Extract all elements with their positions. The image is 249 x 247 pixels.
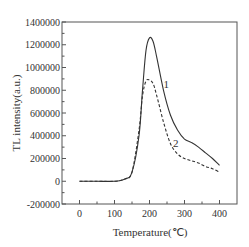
curve-label-2: 2	[173, 137, 179, 149]
x-axis: 0100200300400	[77, 200, 227, 219]
y-axis-title: TL intensity(a.u.)	[10, 74, 23, 151]
plot-frame	[62, 22, 237, 204]
y-tick-label: 1400000	[25, 17, 60, 28]
y-tick-label: 0	[55, 176, 60, 187]
y-tick-label: 1000000	[25, 62, 60, 73]
series-1-line	[80, 37, 220, 181]
y-tick-label: 600000	[30, 108, 60, 119]
y-tick-label: -200000	[27, 199, 60, 210]
y-tick-label: 200000	[30, 153, 60, 164]
y-tick-label: 1200000	[25, 39, 60, 50]
tl-intensity-chart: 1400000120000010000008000006000004000002…	[0, 0, 249, 247]
series-2-line	[80, 79, 220, 181]
x-tick-label: 300	[177, 208, 192, 219]
y-tick-label: 800000	[30, 85, 60, 96]
plot-series	[80, 37, 220, 181]
curve-label-1: 1	[164, 78, 170, 90]
y-tick-label: 400000	[30, 130, 60, 141]
curve-labels: 12	[164, 78, 179, 149]
x-tick-label: 400	[212, 208, 227, 219]
x-tick-label: 200	[142, 208, 157, 219]
plot-border	[62, 22, 237, 204]
x-tick-label: 100	[107, 208, 122, 219]
y-axis: 1400000120000010000008000006000004000002…	[25, 17, 66, 210]
x-tick-label: 0	[77, 208, 82, 219]
x-axis-title: Temperature(℃)	[113, 226, 188, 239]
